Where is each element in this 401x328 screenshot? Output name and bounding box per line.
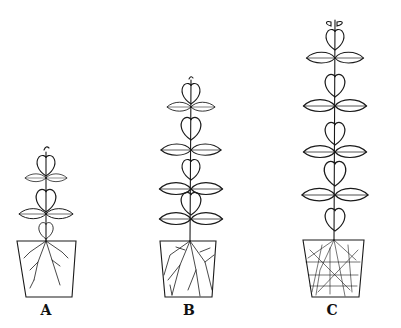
label-b: B	[179, 302, 199, 318]
plant-growth-diagram	[0, 0, 401, 328]
plant-a	[17, 147, 76, 297]
plant-c	[302, 20, 368, 297]
pot-a	[17, 241, 76, 297]
pot-b	[160, 241, 216, 297]
pot-c	[303, 240, 364, 297]
label-c: C	[322, 302, 342, 318]
label-a: A	[36, 302, 56, 318]
plant-b	[160, 77, 223, 297]
